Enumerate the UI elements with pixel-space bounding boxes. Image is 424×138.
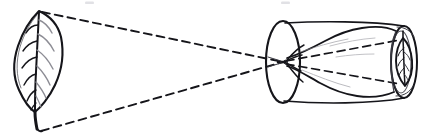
lower-light-ray [41,62,283,131]
cone-shade-3 [330,38,375,46]
cylinder-top-edge [285,22,404,26]
leaf-vein-l2 [23,41,37,51]
leaf-vein-r3 [37,50,53,69]
projected-vein-2 [398,58,404,66]
scan-artifact-group [85,2,290,5]
leaf-vein-l4 [24,74,36,85]
camera-obscura-cylinder [266,21,417,103]
leaf-vein-l3 [22,57,37,68]
upper-light-ray [42,12,283,62]
projected-leaf-midrib [403,39,405,85]
light-cone-neck [286,45,304,82]
leaf-object [14,11,62,131]
leaf-vein-r6 [36,96,41,107]
projected-inverted-leaf-image [396,31,412,86]
leaf-vein-r2 [38,34,54,51]
internal-light-cone [286,27,400,97]
light-cone-upper-boundary [287,27,396,58]
leaf-vein-r5 [36,82,46,98]
figure-root: Pinhole camera ray diagram A leaf at lef… [0,0,424,138]
projected-vein-3 [399,68,404,75]
cone-shade-2 [302,70,350,87]
leaf-vein-r1 [39,20,52,33]
light-cone-shading [300,38,375,87]
leaf-vein-r4 [37,66,50,85]
cone-shade-4 [336,54,374,57]
scan-speck-right [281,2,290,5]
scan-speck-left [85,2,94,5]
cylinder-bottom-edge [284,98,404,103]
projected-vein-4 [404,52,410,60]
leaf-stem [35,112,37,129]
light-ray-bundle [41,12,283,131]
pinhole-camera-diagram [0,0,424,138]
